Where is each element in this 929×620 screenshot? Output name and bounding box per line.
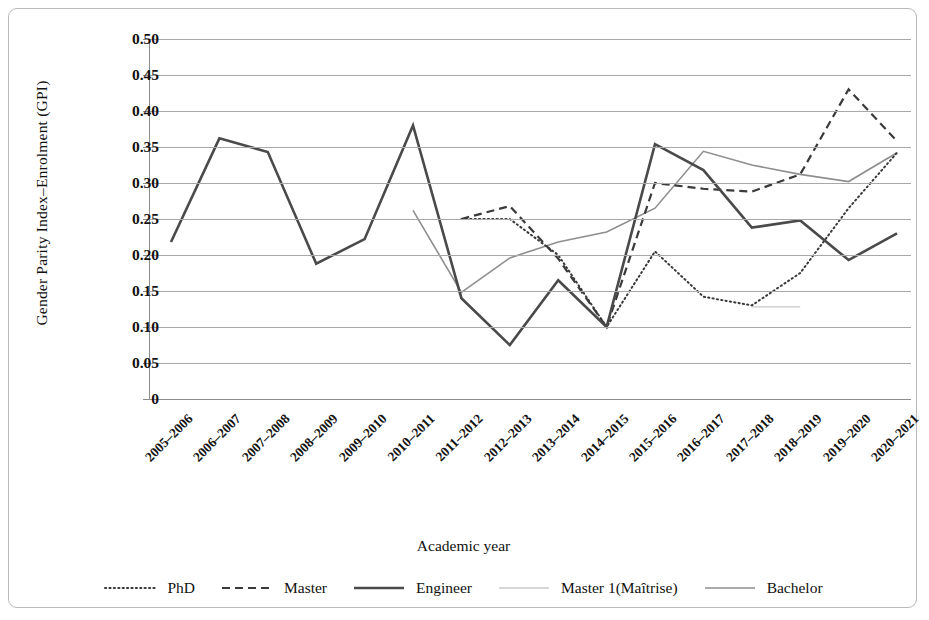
legend-item[interactable]: PhD	[104, 579, 195, 597]
gridline	[149, 39, 911, 40]
legend-item[interactable]: Master	[221, 579, 327, 597]
y-tick-label: 0	[69, 390, 159, 408]
legend-label: Bachelor	[767, 579, 823, 597]
y-axis-title: Gender Parity Index–Enrolment (GPI)	[33, 33, 51, 373]
legend-label: Master	[284, 579, 327, 597]
gridline	[149, 255, 911, 256]
legend-swatch-engineer	[353, 583, 405, 593]
gridline	[149, 363, 911, 364]
legend-label: PhD	[167, 579, 195, 597]
gridline	[149, 111, 911, 112]
series-line-bachelor	[413, 151, 897, 292]
y-tick-label: 0.25	[69, 210, 159, 228]
y-tick-label: 0.40	[69, 102, 159, 120]
y-tick-label: 0.45	[69, 66, 159, 84]
series-line-engineer	[171, 125, 897, 345]
gridline	[149, 291, 911, 292]
legend-item[interactable]: Engineer	[353, 579, 472, 597]
gridline	[149, 75, 911, 76]
legend-swatch-master-1-ma-trise	[498, 583, 550, 593]
gridline	[149, 327, 911, 328]
y-tick-label: 0.30	[69, 174, 159, 192]
gridline	[149, 399, 911, 400]
gridline	[149, 147, 911, 148]
legend-item[interactable]: Master 1(Maîtrise)	[498, 579, 678, 597]
y-tick-label: 0.15	[69, 282, 159, 300]
legend-swatch-phd	[104, 583, 156, 593]
chart-legend: PhDMasterEngineerMaster 1(Maîtrise)Bache…	[9, 579, 918, 597]
y-tick-label: 0.50	[69, 30, 159, 48]
legend-swatch-master	[221, 583, 273, 593]
gridline	[149, 219, 911, 220]
y-tick-label: 0.20	[69, 246, 159, 264]
y-tick-label: 0.35	[69, 138, 159, 156]
legend-label: Engineer	[416, 579, 472, 597]
plot-area: 0.500.450.400.350.300.250.200.150.100.05…	[149, 39, 911, 399]
gridline	[149, 183, 911, 184]
legend-swatch-bachelor	[704, 583, 756, 593]
legend-item[interactable]: Bachelor	[704, 579, 823, 597]
chart-figure: Gender Parity Index–Enrolment (GPI) 0.50…	[8, 8, 917, 608]
y-tick-label: 0.10	[69, 318, 159, 336]
y-tick-label: 0.05	[69, 354, 159, 372]
legend-label: Master 1(Maîtrise)	[561, 579, 678, 597]
x-axis-title: Academic year	[9, 537, 918, 555]
